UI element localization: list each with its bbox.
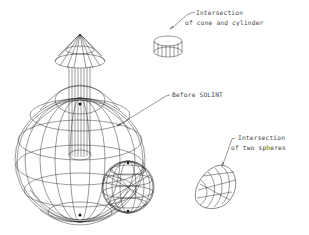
cone-cylinder-intersection (154, 36, 182, 57)
label-two-spheres-line1: Intersection (238, 134, 285, 141)
large-sphere (15, 85, 145, 225)
label-two-spheres-line2: of two spheres (231, 144, 286, 151)
small-sphere (102, 161, 154, 213)
wireframe-drawing (0, 0, 309, 235)
cone (55, 34, 105, 68)
label-before-solint: Before SOLINT (172, 91, 223, 98)
label-cone-cylinder-line1: Intersection (196, 9, 243, 16)
diagram-canvas: Intersection of cone and cylinder Before… (0, 0, 309, 235)
cylinder (69, 66, 91, 160)
sphere-intersection (195, 165, 236, 209)
label-cone-cylinder-line2: of cone and cylinder (185, 19, 264, 26)
leader-lines (117, 12, 235, 166)
